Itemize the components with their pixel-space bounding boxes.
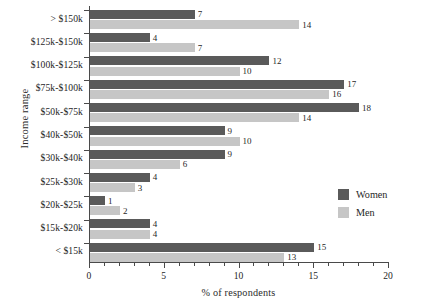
- x-axis-tick-label: 10: [234, 270, 244, 281]
- bar-group-row: > $150k714: [89, 6, 388, 29]
- x-axis-major-tick: [239, 262, 240, 268]
- x-axis-tick-label: 0: [87, 270, 92, 281]
- x-axis-minor-tick: [298, 262, 299, 266]
- y-axis-tick-label: $25k-$30k: [41, 175, 83, 186]
- y-axis-tick: [84, 80, 89, 81]
- bar-women: 18: [90, 103, 359, 112]
- bar-value-label: 6: [183, 159, 188, 169]
- bar-value-label: 4: [153, 229, 158, 239]
- y-axis-tick-label: $15k-$20k: [41, 222, 83, 233]
- bar-women: 12: [90, 56, 269, 65]
- y-axis-tick-label: $125k-$150k: [31, 35, 83, 46]
- x-axis-tick-label: 5: [161, 270, 166, 281]
- bar-women: 1: [90, 196, 105, 205]
- x-axis-minor-tick: [283, 262, 284, 266]
- bar-value-label: 2: [123, 206, 128, 216]
- x-axis-minor-tick: [179, 262, 180, 266]
- x-axis-minor-tick: [373, 262, 374, 266]
- y-axis-tick-label: $75k-$100k: [36, 82, 83, 93]
- x-axis-minor-tick: [119, 262, 120, 266]
- x-axis-minor-tick: [253, 262, 254, 266]
- y-axis-tick: [84, 103, 89, 104]
- bar-women: 9: [90, 126, 225, 135]
- x-axis-minor-tick: [224, 262, 225, 266]
- y-axis-tick: [84, 196, 89, 197]
- x-axis-minor-tick: [328, 262, 329, 266]
- bar-value-label: 4: [153, 219, 158, 229]
- y-axis-tick: [84, 243, 89, 244]
- legend-entry-women[interactable]: Women: [338, 189, 387, 200]
- x-axis-minor-tick: [358, 262, 359, 266]
- bar-value-label: 4: [153, 172, 158, 182]
- bar-men: 3: [90, 183, 135, 192]
- x-axis-minor-tick: [209, 262, 210, 266]
- bar-value-label: 14: [302, 20, 311, 30]
- bar-value-label: 1: [108, 196, 113, 206]
- bar-value-label: 12: [272, 56, 281, 66]
- bar-women: 4: [90, 173, 150, 182]
- x-axis-major-tick: [313, 262, 314, 268]
- bar-value-label: 16: [332, 89, 341, 99]
- x-axis-tick-label: 20: [383, 270, 393, 281]
- x-axis-title: % of respondents: [89, 287, 388, 298]
- bar-men: 16: [90, 90, 329, 99]
- bar-men: 14: [90, 20, 299, 29]
- y-axis-tick: [84, 150, 89, 151]
- x-axis-major-tick: [388, 262, 389, 268]
- x-axis-minor-tick: [268, 262, 269, 266]
- bar-men: 13: [90, 253, 284, 262]
- bar-value-label: 9: [228, 126, 233, 136]
- bar-men: 6: [90, 160, 180, 169]
- chart-legend: WomenMen: [338, 189, 387, 225]
- bar-women: 7: [90, 10, 195, 19]
- x-axis-major-tick: [164, 262, 165, 268]
- bar-value-label: 4: [153, 33, 158, 43]
- x-axis-minor-tick: [343, 262, 344, 266]
- bar-women: 4: [90, 33, 150, 42]
- y-axis-tick-label: $40k-$50k: [41, 128, 83, 139]
- bar-value-label: 18: [362, 103, 371, 113]
- legend-swatch-men: [338, 207, 349, 218]
- y-axis-tick: [84, 173, 89, 174]
- x-axis-minor-tick: [194, 262, 195, 266]
- y-axis-tick-label: $50k-$75k: [41, 105, 83, 116]
- y-axis-tick-label: $20k-$25k: [41, 198, 83, 209]
- bar-value-label: 9: [228, 149, 233, 159]
- y-axis-tick-label: $100k-$125k: [31, 59, 83, 70]
- bar-women: 17: [90, 80, 344, 89]
- bar-men: 2: [90, 206, 120, 215]
- y-axis-tick: [84, 10, 89, 11]
- x-axis-tick-label: 15: [308, 270, 318, 281]
- x-axis-major-tick: [89, 262, 90, 268]
- bar-women: 9: [90, 150, 225, 159]
- y-axis-tick: [84, 220, 89, 221]
- bar-men: 10: [90, 67, 240, 76]
- bar-women: 4: [90, 219, 150, 228]
- y-axis-tick: [84, 127, 89, 128]
- bar-value-label: 10: [243, 66, 252, 76]
- bar-men: 10: [90, 137, 240, 146]
- bar-value-label: 7: [198, 9, 203, 19]
- bar-value-label: 15: [317, 242, 326, 252]
- bar-value-label: 14: [302, 113, 311, 123]
- bar-value-label: 3: [138, 183, 143, 193]
- y-axis-tick: [84, 57, 89, 58]
- y-axis-tick-label: < $15k: [55, 245, 83, 256]
- legend-label: Women: [356, 189, 387, 200]
- bar-group-row: < $15k1513: [89, 239, 388, 262]
- x-axis-minor-tick: [134, 262, 135, 266]
- x-axis-minor-tick: [149, 262, 150, 266]
- x-axis-minor-tick: [104, 262, 105, 266]
- bar-value-label: 13: [287, 252, 296, 262]
- bar-value-label: 17: [347, 79, 356, 89]
- bar-men: 7: [90, 43, 195, 52]
- y-axis-tick-label: $30k-$40k: [41, 152, 83, 163]
- y-axis-title: Income range: [19, 64, 30, 174]
- bar-chart-figure: Income range > $150k714$125k-$150k47$100…: [0, 0, 421, 306]
- legend-entry-men[interactable]: Men: [338, 207, 387, 218]
- legend-swatch-women: [338, 189, 349, 200]
- bar-group-row: $125k-$150k47: [89, 29, 388, 52]
- bar-group-row: $50k-$75k1814: [89, 99, 388, 122]
- y-axis-tick: [84, 33, 89, 34]
- plot-area: > $150k714$125k-$150k47$100k-$125k1210$7…: [89, 6, 388, 262]
